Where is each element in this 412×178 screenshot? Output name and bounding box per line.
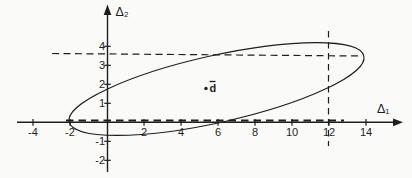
x-tick-label: -2 [65,126,75,138]
x-tick-label: 6 [215,126,221,138]
mean-point-label: d [210,82,217,94]
x-tick-label: 4 [178,126,184,138]
x-tick-label: -4 [28,126,38,138]
y-tick-label: 2 [99,78,105,90]
x-tick-label: 10 [286,126,298,138]
y-tick-label: 4 [99,40,105,52]
y-axis-arrowhead-icon [104,5,112,16]
x-axis-arrowhead-icon [393,118,403,126]
dashed-hline-upper [52,54,362,57]
figure-plot: -4 -2 2 4 6 8 10 12 14 4 3 2 1 -1 -2 Δ₁ … [0,0,412,178]
y-tick-label: 3 [99,59,105,71]
y-axis-label: Δ₂ [116,5,129,19]
x-axis-label: Δ₁ [377,102,390,116]
y-tick-label: -1 [95,135,105,147]
x-tick-label: 8 [252,126,258,138]
figure-canvas: -4 -2 2 4 6 8 10 12 14 4 3 2 1 -1 -2 Δ₁ … [0,0,412,178]
x-tick-label: 14 [360,126,372,138]
y-tick-label: -2 [95,154,105,166]
x-tick-label: 2 [141,126,147,138]
mean-point-dot [204,87,207,90]
x-tick-label: 12 [323,126,335,138]
y-tick-label: 1 [99,97,105,109]
